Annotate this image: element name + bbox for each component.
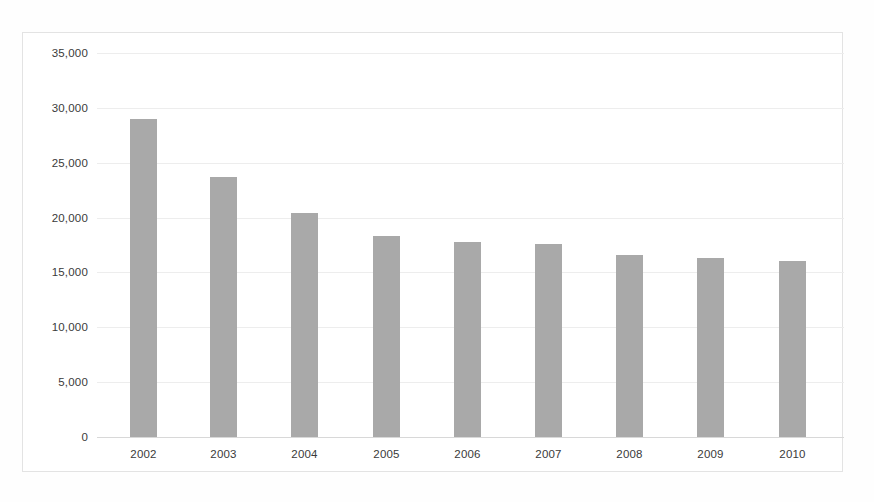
y-axis-label-20000: 20,000 [52,212,88,224]
gridline-30000: 30,000 [97,108,844,109]
bar-2004[interactable] [291,213,318,437]
gridline-35000: 35,000 [97,53,844,54]
y-axis-label-30000: 30,000 [52,102,88,114]
x-axis-label-2007: 2007 [535,448,561,460]
x-axis-label-2009: 2009 [697,448,723,460]
bar-2003[interactable] [210,177,237,437]
bar-2007[interactable] [535,244,562,437]
bar-2002[interactable] [130,119,157,437]
y-axis-label-10000: 10,000 [52,321,88,333]
x-axis-label-2008: 2008 [616,448,642,460]
gridline-25000: 25,000 [97,163,844,164]
y-axis-label-15000: 15,000 [52,266,88,278]
chart-screenshot: 35,000 30,000 25,000 20,000 15,000 10,00… [0,0,874,502]
x-axis-label-2005: 2005 [373,448,399,460]
bar-2009[interactable] [697,258,724,437]
x-axis-label-2003: 2003 [210,448,236,460]
x-axis-line: 0 [97,437,844,438]
y-axis-label-35000: 35,000 [52,47,88,59]
x-axis-label-2004: 2004 [291,448,317,460]
plot-area: 35,000 30,000 25,000 20,000 15,000 10,00… [97,53,844,437]
bar-2008[interactable] [616,255,643,437]
bar-2010[interactable] [779,261,806,437]
y-axis-label-0: 0 [81,431,88,443]
chart-frame: 35,000 30,000 25,000 20,000 15,000 10,00… [22,32,843,472]
x-axis-label-2010: 2010 [779,448,805,460]
y-axis-label-25000: 25,000 [52,157,88,169]
bar-2006[interactable] [454,242,481,437]
x-axis-label-2006: 2006 [454,448,480,460]
x-axis-label-2002: 2002 [130,448,156,460]
bar-2005[interactable] [373,236,400,437]
y-axis-label-5000: 5,000 [58,376,88,388]
